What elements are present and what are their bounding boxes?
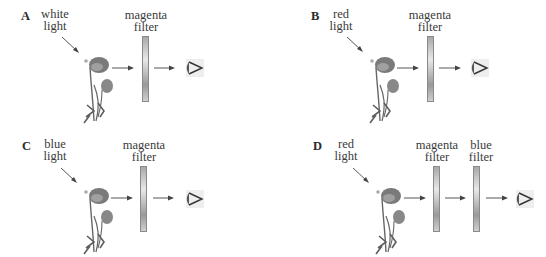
panel-letter: C	[22, 139, 31, 154]
panel-b: B red light magenta filter	[273, 0, 546, 128]
light-source-label: red light	[326, 8, 356, 32]
panel-letter: A	[21, 9, 30, 24]
panel-a: A white light magenta filter	[0, 0, 273, 128]
panel-letter: D	[313, 139, 322, 154]
poppy-flower-icon	[80, 55, 120, 125]
panel-d: D red light magenta filter blue filter	[273, 128, 546, 256]
poppy-flower-icon	[366, 55, 406, 125]
filter-label: blue filter	[461, 139, 501, 163]
arrow-right-icon	[273, 0, 274, 1]
panel-c: C blue light magenta filter	[0, 128, 273, 256]
filter-label: magenta filter	[402, 9, 458, 33]
light-source-label: red light	[331, 138, 361, 162]
light-source-label: white light	[38, 8, 72, 32]
poppy-flower-icon	[372, 186, 412, 256]
filter-label: magenta filter	[118, 9, 174, 33]
eye-icon	[471, 59, 489, 77]
arrow-right-icon	[0, 128, 1, 129]
magenta-filter	[142, 36, 149, 102]
blue-filter	[473, 166, 480, 232]
eye-icon	[186, 59, 204, 77]
magenta-filter	[427, 36, 434, 102]
arrow-right-icon	[273, 128, 274, 129]
magenta-filter	[433, 166, 440, 232]
magenta-filter	[140, 166, 147, 232]
light-source-label: blue light	[40, 138, 70, 162]
panel-letter: B	[311, 9, 319, 24]
filter-label: magenta filter	[409, 139, 465, 163]
eye-icon	[516, 190, 534, 208]
eye-icon	[186, 190, 204, 208]
filter-label: magenta filter	[116, 139, 172, 163]
poppy-flower-icon	[80, 186, 120, 256]
arrow-right-icon	[0, 0, 1, 1]
